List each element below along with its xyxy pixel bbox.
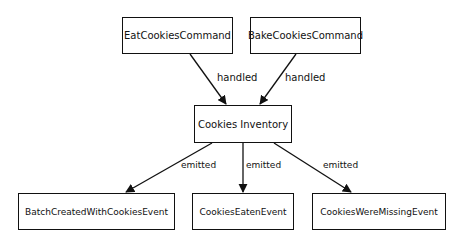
node-label: CookiesWereMissingEvent — [320, 207, 438, 217]
edge-label-emitted-eaten: emitted — [246, 160, 281, 170]
node-cookies-eaten-event: CookiesEatenEvent — [192, 193, 294, 230]
node-label: EatCookiesCommand — [124, 30, 231, 41]
edge-label-handled-eat: handled — [217, 72, 257, 83]
node-label: Cookies Inventory — [198, 119, 288, 130]
node-eat-cookies-command: EatCookiesCommand — [122, 17, 233, 54]
node-batch-created-event: BatchCreatedWithCookiesEvent — [18, 193, 175, 230]
edge-label-emitted-missing: emitted — [323, 160, 358, 170]
edge-label-handled-bake: handled — [285, 72, 325, 83]
node-bake-cookies-command: BakeCookiesCommand — [250, 17, 361, 54]
node-cookies-inventory: Cookies Inventory — [194, 105, 292, 143]
node-label: BatchCreatedWithCookiesEvent — [25, 207, 168, 217]
edge-label-emitted-batch: emitted — [181, 160, 216, 170]
node-cookies-were-missing-event: CookiesWereMissingEvent — [312, 193, 446, 230]
node-label: BakeCookiesCommand — [248, 30, 363, 41]
node-label: CookiesEatenEvent — [200, 207, 287, 217]
